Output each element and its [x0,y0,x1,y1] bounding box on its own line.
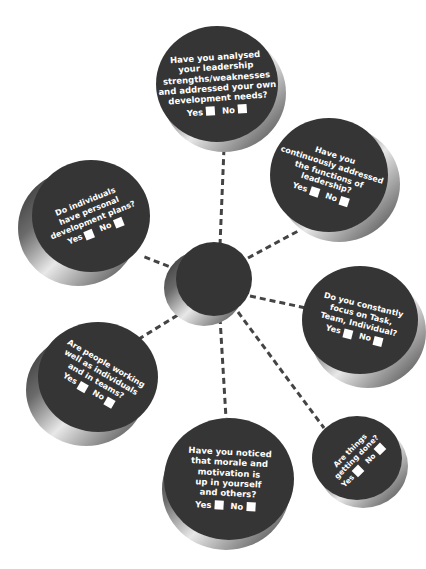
yes-checkbox[interactable] [309,186,320,197]
no-label: No [230,501,243,512]
yes-checkbox[interactable] [352,465,365,478]
disc-face: Have you analysed your leadership streng… [156,26,278,142]
connector-bottom [220,318,226,418]
yes-checkbox[interactable] [343,328,354,339]
question-disc-top: Have you analysed your leadership streng… [156,26,288,152]
question-disc-right: Do you constantly focus on Task, Team, I… [302,266,426,388]
yes-checkbox[interactable] [83,228,95,240]
yes-label: Yes [66,232,84,247]
disc-face: Have you continuously addressed the func… [270,118,388,232]
no-checkbox[interactable] [112,216,124,228]
disc-face: Do you constantly focus on Task, Team, I… [302,266,418,374]
disc-content: Do you constantly focus on Task, Team, I… [315,290,404,350]
disc-face: Are things getting done? Yes No [312,416,402,500]
center-hub [160,242,252,322]
question-text: Have you analysed your leadership streng… [156,48,277,108]
center-hub-face [176,242,252,316]
question-disc-bottom: Have you noticed that morale and motivat… [160,418,294,550]
question-text: Have you noticed that morale and motivat… [186,445,272,501]
no-checkbox[interactable] [104,396,116,408]
no-label: No [90,388,105,403]
disc-content: Have you analysed your leadership streng… [156,48,278,120]
no-label: No [363,452,378,467]
connector-top [220,148,224,245]
no-label: No [98,220,113,234]
yes-label: Yes [325,323,342,336]
no-label: No [324,191,339,204]
no-label: No [222,105,236,116]
yes-label: Yes [195,499,212,510]
no-checkbox[interactable] [373,335,384,346]
connector-right [250,296,306,308]
yes-label: Yes [291,180,309,194]
no-checkbox[interactable] [246,502,255,511]
answer-options: Yes No [186,103,251,118]
disc-content: Are things getting done? Yes No [325,426,389,490]
answer-options: Yes No [195,499,260,513]
yes-checkbox[interactable] [214,501,223,510]
yes-label: Yes [186,107,203,118]
no-checkbox[interactable] [373,443,386,456]
question-disc-lower-right: Are things getting done? Yes No [312,416,408,508]
disc-face: Have you noticed that morale and motivat… [164,418,294,540]
disc-content: Are people working well as individuals a… [50,337,147,417]
question-disc-upper-left: Do individuals have personal development… [18,160,150,286]
disc-content: Have you noticed that morale and motivat… [186,445,273,513]
yes-checkbox[interactable] [206,107,216,117]
no-checkbox[interactable] [339,196,350,207]
question-disc-upper-right: Have you continuously addressed the func… [270,118,400,242]
disc-face: Are people working well as individuals a… [38,322,158,432]
disc-content: Have you continuously addressed the func… [270,134,388,215]
disc-content: Do individuals have personal development… [41,180,141,252]
no-checkbox[interactable] [238,104,248,114]
question-disc-lower-left: Are people working well as individuals a… [26,322,158,446]
disc-face: Do individuals have personal development… [32,160,150,272]
no-label: No [358,331,372,343]
yes-checkbox[interactable] [77,380,89,392]
